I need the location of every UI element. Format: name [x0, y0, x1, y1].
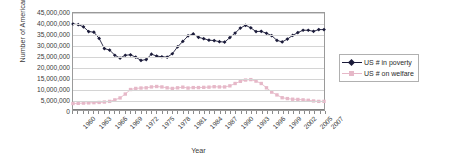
gridline [73, 57, 324, 58]
gridline [73, 79, 324, 80]
data-point-marker [197, 86, 200, 89]
x-axis-tick-label: 1999 [287, 115, 302, 130]
x-axis-tick [188, 111, 189, 114]
legend-marker-square-icon [342, 69, 362, 78]
x-axis-tick [214, 111, 215, 114]
gridline [73, 35, 324, 36]
x-axis-tick [183, 111, 184, 114]
x-axis-line [73, 109, 324, 110]
data-point-marker [265, 86, 268, 89]
x-axis-tick [114, 111, 115, 114]
data-point-marker [317, 28, 321, 32]
x-axis-tick [204, 111, 205, 114]
x-axis-tick [72, 111, 73, 114]
data-point-marker [155, 85, 158, 88]
x-axis-tick [293, 111, 294, 114]
x-axis-tick [288, 111, 289, 114]
data-point-marker [124, 92, 127, 95]
legend-item-poverty[interactable]: US # in poverty [342, 57, 414, 68]
x-axis-tick [167, 111, 168, 114]
x-axis-tick-label: 1960 [81, 115, 96, 130]
data-point-marker [176, 86, 179, 89]
y-axis-tick-label: 15,000,000 [37, 75, 70, 82]
gridline [73, 101, 324, 102]
x-axis-tick [262, 111, 263, 114]
data-point-marker [286, 97, 289, 100]
x-axis-tick-label: 1975 [160, 115, 175, 130]
data-point-marker [322, 28, 326, 32]
data-point-marker [228, 84, 231, 87]
data-series-layer [73, 13, 324, 110]
x-axis-tick-label: 1978 [176, 115, 191, 130]
data-point-marker [260, 82, 263, 85]
x-axis-tick [172, 111, 173, 114]
data-point-marker [207, 85, 210, 88]
x-axis-tick-labels: 1960196319661969197219751978198119841987… [72, 115, 325, 145]
data-point-marker [202, 37, 206, 41]
legend-label-poverty: US # in poverty [364, 59, 412, 66]
data-point-marker [218, 40, 222, 44]
gridline [73, 90, 324, 91]
x-axis-tick-label: 1984 [208, 115, 223, 130]
x-axis-tick [177, 111, 178, 114]
x-axis-tick [146, 111, 147, 114]
x-axis-tick [299, 111, 300, 114]
data-point-marker [301, 28, 305, 32]
x-axis-tick [193, 111, 194, 114]
x-axis-title: Year [72, 146, 325, 155]
data-point-marker [150, 85, 153, 88]
y-axis-tick-label: 5,000,000 [41, 97, 70, 104]
x-axis-tick [246, 111, 247, 114]
legend-marker-diamond-icon [342, 58, 362, 67]
x-axis-tick-label: 1981 [192, 115, 207, 130]
y-axis-tick-label: 45,000,000 [37, 9, 70, 16]
chart-legend: US # in poverty US # on welfare [339, 54, 419, 82]
data-point-marker [77, 102, 80, 105]
data-point-marker [160, 85, 163, 88]
x-axis-tick [88, 111, 89, 114]
x-axis-tick [325, 111, 326, 114]
y-axis-tick-label: 0 [66, 108, 70, 115]
legend-label-welfare: US # on welfare [364, 70, 414, 77]
x-axis-tick [309, 111, 310, 114]
data-point-marker [71, 102, 74, 105]
data-point-marker [280, 96, 283, 99]
data-point-marker [218, 85, 221, 88]
x-axis-tick [267, 111, 268, 114]
y-axis-tick-label: 10,000,000 [37, 86, 70, 93]
data-point-marker [118, 96, 121, 99]
x-axis-tick [77, 111, 78, 114]
x-axis-tick [151, 111, 152, 114]
legend-item-welfare[interactable]: US # on welfare [342, 68, 414, 79]
x-axis-tick-label: 1972 [145, 115, 160, 130]
data-point-marker [275, 93, 278, 96]
data-point-marker [181, 85, 184, 88]
x-axis-tick [141, 111, 142, 114]
x-axis-tick [199, 111, 200, 114]
data-point-marker [296, 31, 300, 35]
series-line [73, 24, 324, 60]
data-point-marker [259, 29, 263, 33]
x-axis-tick [235, 111, 236, 114]
data-point-marker [207, 38, 211, 42]
x-axis-tick [162, 111, 163, 114]
x-axis-tick [125, 111, 126, 114]
chart-container: Number of Americans 45,000,00040,000,000… [0, 0, 456, 163]
x-axis-tick [314, 111, 315, 114]
x-axis-tick [209, 111, 210, 114]
gridline [73, 46, 324, 47]
x-axis-tick [83, 111, 84, 114]
data-point-marker [223, 85, 226, 88]
x-axis-tick [225, 111, 226, 114]
data-point-marker [239, 80, 242, 83]
y-axis-tick-label: 25,000,000 [37, 53, 70, 60]
data-point-marker [145, 86, 148, 89]
x-axis-tick [93, 111, 94, 114]
y-axis-tick-label: 20,000,000 [37, 64, 70, 71]
y-axis-tick-labels: 45,000,00040,000,00035,000,00030,000,000… [22, 9, 70, 115]
data-point-marker [102, 47, 106, 51]
data-point-marker [306, 28, 310, 32]
y-axis-tick-label: 35,000,000 [37, 31, 70, 38]
plot-area [72, 12, 325, 111]
x-axis-tick [320, 111, 321, 114]
